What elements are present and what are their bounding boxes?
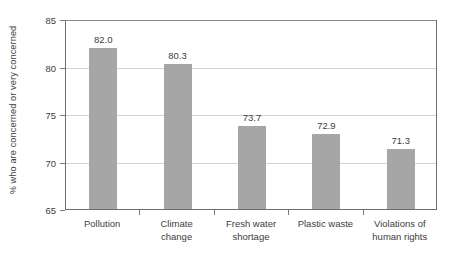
- bar-slot: 73.7: [215, 20, 289, 209]
- y-axis-tick-labels: 6570758085: [26, 0, 56, 261]
- bar-slot: 71.3: [364, 20, 438, 209]
- bar-slot: 82.0: [66, 20, 140, 209]
- bar-slot: 80.3: [140, 20, 214, 209]
- y-axis-tick-label: 85: [32, 15, 56, 26]
- bar[interactable]: [89, 48, 117, 210]
- y-axis-tick-label: 80: [32, 62, 56, 73]
- bars-layer: 82.080.373.772.971.3: [66, 20, 436, 209]
- x-axis-category-label-line: shortage: [206, 231, 296, 244]
- bar-value-label: 72.9: [317, 120, 336, 131]
- bar[interactable]: [164, 64, 192, 209]
- x-axis-category-labels: PollutionClimatechangeFresh watershortag…: [65, 218, 437, 258]
- bar-value-label: 80.3: [168, 50, 187, 61]
- y-axis-tick-label: 70: [32, 157, 56, 168]
- y-axis-tick-label: 75: [32, 110, 56, 121]
- bar-value-label: 82.0: [94, 34, 113, 45]
- bar[interactable]: [238, 126, 266, 209]
- bar[interactable]: [387, 149, 415, 209]
- y-axis-tick-label: 65: [32, 205, 56, 216]
- x-axis-tick-mark: [214, 210, 215, 215]
- bar-slot: 72.9: [289, 20, 363, 209]
- y-axis-title: % who are concerned or very concerned: [0, 0, 26, 220]
- x-axis-category-label: Violations ofhuman rights: [355, 218, 445, 243]
- bar[interactable]: [312, 134, 340, 209]
- y-axis-title-label: % who are concerned or very concerned: [8, 26, 18, 195]
- x-axis-tick-mark: [288, 210, 289, 215]
- bar-chart: % who are concerned or very concerned 65…: [0, 0, 461, 261]
- plot-area: 82.080.373.772.971.3: [65, 20, 437, 210]
- bar-value-label: 71.3: [392, 135, 411, 146]
- x-axis-category-label-line: human rights: [355, 231, 445, 244]
- x-axis-tick-mark: [363, 210, 364, 215]
- x-axis-category-label-line: Violations of: [355, 218, 445, 231]
- bar-value-label: 73.7: [243, 112, 262, 123]
- x-axis-tick-mark: [139, 210, 140, 215]
- x-axis-tick-marks: [65, 210, 437, 216]
